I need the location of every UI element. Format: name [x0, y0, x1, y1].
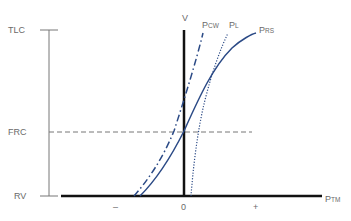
pcw-curve: [134, 33, 203, 196]
tlc-label: TLC: [8, 26, 25, 35]
x-zero-label: 0: [181, 203, 186, 212]
pcw-label: PCW: [202, 21, 219, 30]
pl-curve: [191, 33, 228, 196]
x-minus-label: –: [113, 203, 118, 212]
ptm-label: PTM: [325, 195, 340, 204]
frc-label: FRC: [8, 128, 27, 137]
pressure-volume-diagram: [0, 0, 351, 221]
rv-label: RV: [14, 192, 26, 201]
prs-label: PRS: [259, 26, 274, 35]
volume-axis-label: V: [182, 14, 188, 23]
pl-label: PL: [229, 21, 239, 30]
x-plus-label: +: [253, 203, 258, 212]
prs-curve: [140, 33, 256, 196]
